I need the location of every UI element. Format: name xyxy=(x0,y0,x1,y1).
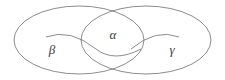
ellipse-beta xyxy=(14,6,144,74)
ellipse-gamma xyxy=(81,6,211,74)
label-alpha: α xyxy=(110,27,118,42)
venn-diagram: β α γ xyxy=(0,0,225,80)
figure-canvas: β α γ xyxy=(0,0,225,80)
label-gamma: γ xyxy=(169,42,175,57)
beta-inner-arc xyxy=(46,34,141,56)
label-beta: β xyxy=(48,42,56,57)
